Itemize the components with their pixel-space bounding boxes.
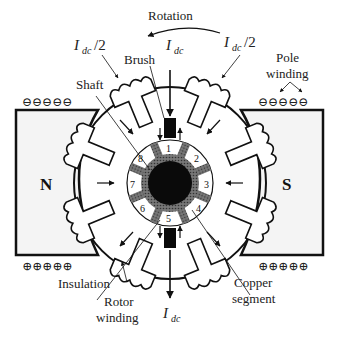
idc-half-right-label: I dc /2 bbox=[223, 34, 256, 53]
idc-half-right-pointer bbox=[222, 55, 240, 78]
svg-text:/2: /2 bbox=[244, 34, 256, 50]
north-pole-top-charges: ⊖⊖⊖⊖⊖ bbox=[22, 95, 72, 109]
svg-text:/2: /2 bbox=[94, 37, 106, 53]
svg-text:I: I bbox=[223, 34, 230, 50]
idc-bottom-label: I dc bbox=[162, 305, 181, 324]
rotation-arrow bbox=[148, 28, 220, 36]
segment-6: 6 bbox=[140, 203, 145, 214]
pole-winding-label-line2: winding bbox=[266, 66, 309, 81]
idc-half-left-pointer bbox=[102, 55, 118, 78]
svg-text:dc: dc bbox=[232, 42, 242, 53]
svg-text:dc: dc bbox=[82, 45, 92, 56]
svg-text:dc: dc bbox=[171, 313, 181, 324]
copper-segment-label-line2: segment bbox=[232, 291, 276, 306]
shaft-label: Shaft bbox=[76, 77, 104, 92]
north-pole-bottom-charges: ⊕⊕⊕⊕⊕ bbox=[22, 259, 72, 273]
svg-text:I: I bbox=[162, 305, 169, 321]
segment-5: 5 bbox=[166, 213, 171, 224]
idc-half-left-label: I dc /2 bbox=[73, 37, 106, 56]
segment-7: 7 bbox=[130, 179, 135, 190]
insulation-label: Insulation bbox=[58, 276, 110, 291]
shaft bbox=[148, 161, 192, 205]
segment-2: 2 bbox=[194, 153, 199, 164]
south-pole-top-charges: ⊖⊖⊖⊖⊖ bbox=[258, 95, 308, 109]
dc-machine-diagram: 1 2 3 4 5 6 7 8 ⊖⊖⊖⊖⊖ ⊖⊖⊖⊖⊖ ⊕⊕⊕⊕⊕ ⊕⊕⊕⊕⊕ … bbox=[0, 0, 339, 337]
segment-4: 4 bbox=[196, 203, 201, 214]
south-pole-bottom-charges: ⊕⊕⊕⊕⊕ bbox=[258, 259, 308, 273]
svg-text:dc: dc bbox=[174, 45, 184, 56]
rotor-winding-label-line2: winding bbox=[96, 310, 139, 325]
segment-3: 3 bbox=[204, 179, 209, 190]
brush-label: Brush bbox=[124, 52, 156, 67]
south-label: S bbox=[282, 175, 291, 194]
idc-top-label: I dc bbox=[165, 37, 184, 56]
brush-top bbox=[164, 118, 176, 138]
segment-1: 1 bbox=[166, 143, 171, 154]
copper-segment-label-line1: Copper bbox=[234, 275, 273, 290]
svg-text:I: I bbox=[165, 37, 172, 53]
brush-bottom bbox=[164, 228, 176, 248]
rotor-winding-label-line1: Rotor bbox=[104, 294, 134, 309]
pole-winding-pointer-left bbox=[280, 82, 290, 92]
pole-winding-pointer-right bbox=[290, 82, 302, 92]
pole-winding-label-line1: Pole bbox=[276, 50, 299, 65]
north-label: N bbox=[40, 175, 53, 194]
svg-text:I: I bbox=[73, 37, 80, 53]
rotation-label: Rotation bbox=[148, 8, 193, 23]
